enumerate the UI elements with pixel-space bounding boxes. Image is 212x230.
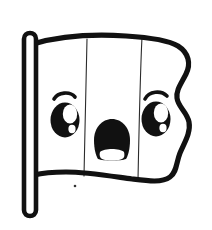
- artboard: Black outline drawing of a waving flag o…: [0, 0, 212, 230]
- left-eye-highlight-small: [68, 125, 75, 133]
- ink-speck: [74, 185, 77, 188]
- tongue: [100, 149, 125, 161]
- flagpole: [24, 33, 36, 216]
- flag-illustration: [0, 0, 212, 230]
- left-eye: [51, 103, 80, 138]
- right-eye: [142, 102, 171, 137]
- mouth: [94, 119, 130, 161]
- right-eye-highlight-small: [159, 124, 166, 132]
- right-eye-highlight: [154, 104, 168, 123]
- left-eye-highlight: [63, 105, 77, 124]
